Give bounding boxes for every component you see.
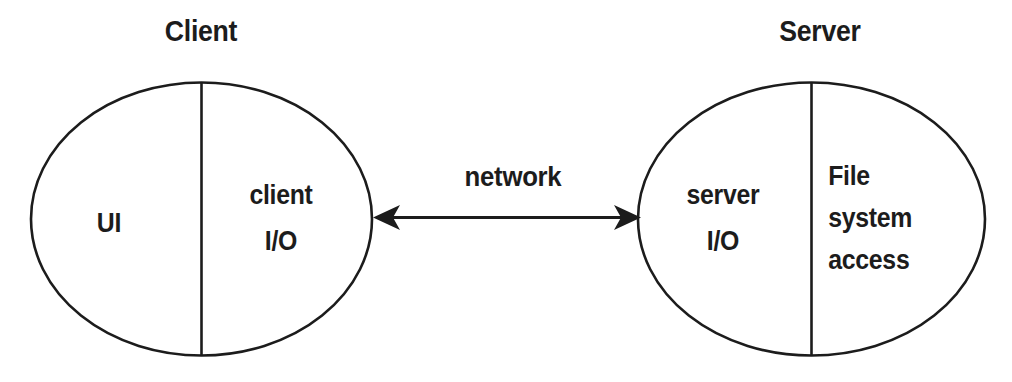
server-fs-label-line3: access	[828, 247, 948, 274]
client-io-label-line2: I/O	[217, 228, 346, 255]
server-fs-label-line1: File	[828, 163, 948, 190]
client-ui-label: UI	[45, 210, 174, 237]
client-title: Client	[109, 17, 293, 46]
server-fs-label-line2: system	[828, 205, 948, 232]
network-label: network	[421, 163, 605, 191]
network-arrow	[373, 205, 641, 230]
diagram-canvas: Client Server network UI client I/O serv…	[0, 0, 1012, 382]
server-title: Server	[728, 17, 912, 46]
server-io-label-line2: I/O	[659, 228, 788, 255]
server-io-label-line1: server	[659, 182, 788, 209]
client-io-label-line1: client	[217, 182, 346, 209]
